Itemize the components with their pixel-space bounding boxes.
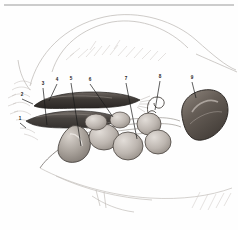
label-5: 5: [70, 76, 73, 81]
label-7: 7: [125, 76, 128, 81]
label-1: 1: [19, 116, 22, 121]
anatomical-figure: 1 2 3 4 5 6 7 8 9: [0, 0, 238, 230]
loop-f: [110, 112, 130, 128]
label-3: 3: [42, 81, 45, 86]
label-6: 6: [89, 77, 92, 82]
loop-e: [85, 114, 107, 130]
label-4: 4: [56, 77, 59, 82]
loop-b: [113, 132, 143, 160]
label-8: 8: [159, 74, 162, 79]
label-2: 2: [21, 92, 24, 97]
illustration-canvas: 1 2 3 4 5 6 7 8 9: [0, 0, 238, 230]
loop-d: [145, 130, 171, 154]
label-9: 9: [191, 75, 194, 80]
